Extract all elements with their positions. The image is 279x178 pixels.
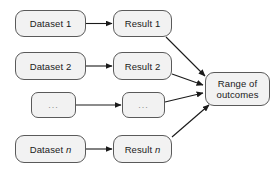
flowchart-diagram: Dataset 1 Result 1 Dataset 2 Result 2 ..… (0, 0, 279, 178)
node-dataset-n-prefix: Dataset (30, 144, 66, 155)
node-range-of-outcomes-label: Range of outcomes (217, 78, 259, 100)
node-result-2[interactable]: Result 2 (113, 52, 172, 80)
node-result-1[interactable]: Result 1 (113, 10, 172, 37)
node-dataset-n[interactable]: Dataset n (15, 135, 86, 163)
edge-resultdots-outcome (165, 93, 203, 102)
edge-result2-outcome (172, 74, 203, 85)
node-result-n-prefix: Result (125, 144, 155, 155)
node-result-n[interactable]: Result n (113, 135, 172, 163)
node-dataset-n-label: Dataset n (30, 144, 72, 155)
node-dataset-ellipsis[interactable]: ... (31, 92, 76, 118)
node-result-n-suffix: n (155, 144, 160, 155)
node-result-1-label: Result 1 (125, 18, 161, 29)
node-dataset-1-label: Dataset 1 (30, 18, 72, 29)
edge-resultn-outcome (172, 105, 209, 137)
node-dataset-2[interactable]: Dataset 2 (15, 52, 86, 80)
node-dataset-1[interactable]: Dataset 1 (15, 10, 86, 37)
node-range-of-outcomes[interactable]: Range of outcomes (205, 72, 270, 106)
node-result-ellipsis-label: ... (138, 100, 149, 111)
node-dataset-ellipsis-label: ... (48, 100, 59, 111)
node-result-n-label: Result n (125, 144, 161, 155)
node-dataset-2-label: Dataset 2 (30, 61, 72, 72)
node-result-2-label: Result 2 (125, 61, 161, 72)
node-result-ellipsis[interactable]: ... (122, 92, 165, 118)
node-dataset-n-suffix: n (66, 144, 71, 155)
